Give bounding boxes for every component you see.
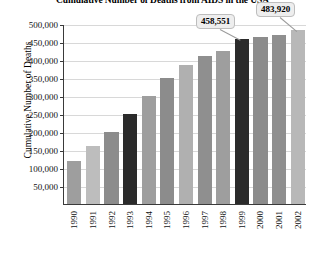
bar-slot: 1994 [139,25,158,204]
bar[interactable] [253,37,267,204]
x-axis-tick-label: 1991 [88,211,98,229]
bar[interactable] [104,132,118,204]
y-axis-tick-label: 350,000 [29,74,58,84]
bar[interactable] [86,146,100,204]
plot-area: 50,000100,000150,000200,000250,000300,00… [63,25,306,205]
bar-slot: 1991 [84,25,103,204]
y-axis-tick [60,133,64,134]
x-axis-tick-label: 1994 [144,211,154,229]
bar[interactable] [160,78,174,204]
x-axis-tick-label: 1998 [218,211,228,229]
bar[interactable] [142,96,156,204]
bar-slot: 2002 [288,25,307,204]
x-axis-tick-label: 1999 [237,211,247,229]
x-axis-tick-label: 1992 [107,211,117,229]
x-axis-tick-label: 2002 [293,211,303,229]
x-axis-tick-label: 2000 [255,211,265,229]
y-axis-tick [60,151,64,152]
y-axis-tick [60,61,64,62]
y-axis-tick-label: 200,000 [29,128,58,138]
y-axis-tick-label: 50,000 [33,182,58,192]
y-axis-tick [60,187,64,188]
bar-slot: 1996 [177,25,196,204]
y-axis-tick-label: 400,000 [29,56,58,66]
x-axis-tick-label: 1997 [200,211,210,229]
bar-series: 1990199119921993199419951996199719981999… [65,25,306,204]
bar[interactable] [123,114,137,204]
y-axis-tick-label: 450,000 [29,38,58,48]
y-axis-tick [60,169,64,170]
data-callout: 458,551 [196,14,235,29]
aids-deaths-bar-chart: Cumulative Number of Deaths from AIDS in… [0,0,313,258]
y-axis-tick [60,43,64,44]
y-axis-tick-label: 500,000 [29,20,58,30]
x-axis-tick-label: 1995 [162,211,172,229]
bar-slot: 2001 [270,25,289,204]
y-axis-tick-label: 300,000 [29,92,58,102]
bar-slot: 1999 [233,25,252,204]
bar-slot: 1992 [102,25,121,204]
x-axis-tick-label: 2001 [274,211,284,229]
y-axis-tick-label: 100,000 [29,164,58,174]
bar[interactable] [67,161,81,204]
y-axis-tick [60,25,64,26]
x-axis-tick-label: 1993 [125,211,135,229]
y-axis-tick [60,97,64,98]
bar-slot: 1995 [158,25,177,204]
bar-slot: 2000 [251,25,270,204]
bar[interactable] [198,56,212,204]
bar[interactable] [235,39,249,204]
bar[interactable] [291,30,305,204]
y-axis-tick-label: 250,000 [29,110,58,120]
bar[interactable] [179,65,193,204]
bar-slot: 1990 [65,25,84,204]
y-axis-tick [60,115,64,116]
bar[interactable] [272,35,286,204]
bar-slot: 1998 [214,25,233,204]
data-callout: 483,920 [256,2,295,17]
bar[interactable] [216,51,230,204]
y-axis-tick-label: 150,000 [29,146,58,156]
x-axis-tick-label: 1996 [181,211,191,229]
y-axis-tick [60,79,64,80]
bar-slot: 1997 [195,25,214,204]
x-axis-tick-label: 1990 [69,211,79,229]
bar-slot: 1993 [121,25,140,204]
